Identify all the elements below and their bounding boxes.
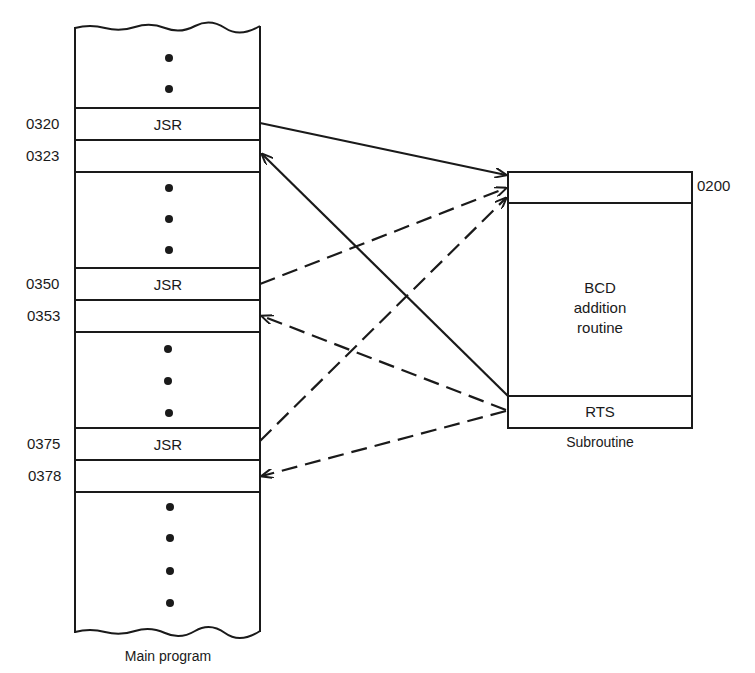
address-0350: 0350	[26, 275, 59, 293]
call-arrow-0350	[260, 188, 506, 284]
ellipsis-dots	[164, 54, 174, 607]
address-0375: 0375	[27, 435, 60, 453]
subroutine-body-line3: routine	[508, 319, 692, 337]
instruction-rts: RTS	[508, 403, 692, 421]
instruction-jsr-0350: JSR	[75, 276, 261, 294]
return-arrow-0378	[262, 411, 506, 476]
address-0320: 0320	[26, 115, 59, 133]
address-0323: 0323	[26, 147, 59, 165]
address-0378: 0378	[28, 467, 61, 485]
call-arrow-0375	[260, 198, 506, 441]
instruction-jsr-0375: JSR	[75, 436, 261, 454]
top-torn-edge	[75, 22, 260, 32]
main-program-caption: Main program	[75, 647, 261, 665]
return-arrow-0323	[262, 154, 508, 396]
main-program-box	[75, 22, 260, 638]
subroutine-body-line2: addition	[508, 299, 692, 317]
instruction-jsr-0320: JSR	[75, 116, 261, 134]
return-arrow-0353	[262, 316, 506, 410]
entry-address-0200: 0200	[697, 177, 730, 195]
call-arrow-0320	[260, 123, 506, 175]
bottom-torn-edge	[75, 627, 260, 638]
address-0353: 0353	[27, 307, 60, 325]
subroutine-caption: Subroutine	[508, 433, 692, 451]
subroutine-body-line1: BCD	[508, 279, 692, 297]
